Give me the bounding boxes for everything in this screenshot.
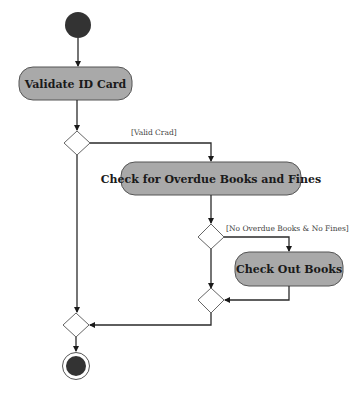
edge-merge1-merge2 bbox=[90, 313, 211, 325]
merge-node-1 bbox=[198, 288, 224, 313]
decision-node-1 bbox=[64, 131, 90, 155]
action-label: Check for Overdue Books and Fines bbox=[101, 173, 321, 186]
guard-valid-card: [Valid Crad] bbox=[131, 128, 177, 137]
edge-decision1-check-overdue bbox=[90, 143, 211, 161]
decision-node-2 bbox=[198, 224, 224, 249]
initial-node bbox=[65, 12, 91, 38]
action-validate-id-card: Validate ID Card bbox=[19, 67, 132, 100]
action-label: Validate ID Card bbox=[24, 78, 127, 91]
activity-diagram: Validate ID Card [Valid Crad] Check for … bbox=[0, 0, 364, 405]
guard-no-overdue: [No Overdue Books & No Fines] bbox=[226, 224, 349, 233]
edge-check-out-merge1 bbox=[225, 286, 289, 300]
action-label: Check Out Books bbox=[236, 263, 342, 276]
final-node bbox=[63, 353, 90, 380]
action-check-out-books: Check Out Books bbox=[235, 252, 343, 286]
edge-decision2-check-out bbox=[224, 237, 289, 251]
merge-node-2 bbox=[63, 313, 89, 337]
action-check-overdue-books-and-fines: Check for Overdue Books and Fines bbox=[101, 162, 321, 195]
